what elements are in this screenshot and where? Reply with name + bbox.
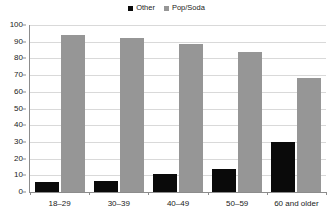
bar-pop-soda	[238, 52, 262, 192]
legend-item-other: Other	[128, 4, 155, 12]
bar-pop-soda	[120, 38, 144, 192]
bars-layer	[30, 25, 325, 192]
y-tick-mark	[23, 41, 26, 42]
x-tick-label: 40–49	[167, 199, 189, 209]
bar-other	[153, 174, 177, 192]
y-tick-mark	[23, 58, 26, 59]
legend-label-other: Other	[136, 4, 155, 12]
y-tick-label: 50	[14, 105, 23, 113]
bar-pop-soda	[179, 44, 203, 192]
bar-other	[212, 169, 236, 192]
y-tick-mark	[23, 175, 26, 176]
x-tick-mark	[326, 192, 327, 195]
bar-other	[94, 181, 118, 192]
y-tick-mark	[23, 108, 26, 109]
x-tick-label: 60 and older	[274, 199, 318, 209]
x-tick-label: 18–29	[48, 199, 70, 209]
x-tick-label: 30–39	[108, 199, 130, 209]
x-axis: 18–2930–3940–4950–5960 and older	[30, 192, 325, 217]
y-tick-label: 70	[14, 71, 23, 79]
y-tick-label: 100	[10, 21, 23, 29]
legend-label-pop-soda: Pop/Soda	[172, 4, 205, 12]
x-tick-mark	[89, 192, 90, 195]
bar-pop-soda	[297, 78, 321, 192]
y-tick-label: 90	[14, 38, 23, 46]
legend-swatch-other-icon	[128, 6, 133, 11]
bar-other	[271, 142, 295, 192]
x-tick-mark	[30, 192, 31, 195]
y-tick-mark	[23, 125, 26, 126]
bar-group	[89, 25, 148, 192]
y-tick-label: 30	[14, 138, 23, 146]
y-tick-mark	[23, 25, 26, 26]
x-tick-label: 50–59	[226, 199, 248, 209]
y-tick-mark	[23, 158, 26, 159]
legend-item-pop-soda: Pop/Soda	[164, 4, 205, 12]
x-tick-mark	[148, 192, 149, 195]
y-tick-label: 80	[14, 54, 23, 62]
y-tick-label: 60	[14, 88, 23, 96]
y-axis: 0102030405060708090100	[0, 25, 26, 192]
bar-group	[208, 25, 267, 192]
y-tick-label: 10	[14, 171, 23, 179]
x-tick-mark	[267, 192, 268, 195]
bar-pop-soda	[61, 35, 85, 192]
x-tick-mark	[208, 192, 209, 195]
bar-other	[35, 182, 59, 192]
y-tick-label: 40	[14, 121, 23, 129]
bar-group	[30, 25, 89, 192]
chart-legend: Other Pop/Soda	[0, 2, 333, 14]
bar-group	[267, 25, 326, 192]
bar-group	[148, 25, 207, 192]
y-tick-mark	[23, 91, 26, 92]
y-tick-mark	[23, 141, 26, 142]
legend-swatch-pop-soda-icon	[164, 6, 169, 11]
bar-chart: Other Pop/Soda 0102030405060708090100 18…	[0, 0, 333, 217]
y-tick-mark	[23, 75, 26, 76]
y-tick-mark	[23, 192, 26, 193]
y-tick-label: 20	[14, 155, 23, 163]
